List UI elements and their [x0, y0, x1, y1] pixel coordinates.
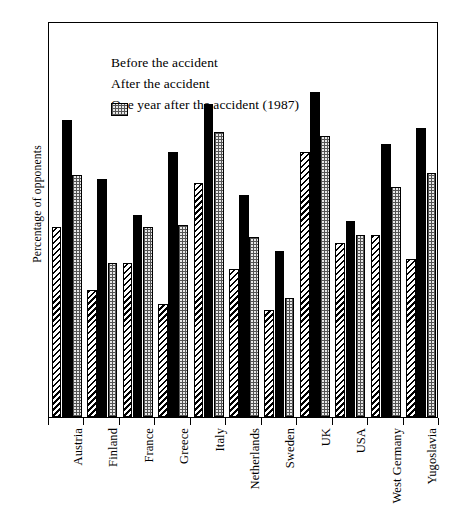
x-tick-mark-11 — [438, 418, 439, 425]
x-tick-mark-9 — [367, 418, 368, 425]
x-tick-mark-3 — [154, 418, 155, 425]
bar-west-germany-after — [381, 144, 391, 417]
plot-area: Before the accident After the accident O… — [48, 22, 438, 418]
bar-austria-oneyear — [72, 175, 82, 417]
bar-netherlands-oneyear — [249, 237, 259, 417]
bar-sweden-oneyear — [285, 298, 295, 417]
x-axis-label-uk: UK — [319, 428, 334, 446]
bar-greece-after — [168, 152, 178, 417]
legend-label-after: After the accident — [111, 76, 210, 92]
bar-italy-oneyear — [214, 132, 224, 417]
bar-austria-after — [62, 120, 72, 417]
x-tick-mark-10 — [403, 418, 404, 425]
bar-usa-after — [346, 221, 356, 417]
bar-sweden-before — [264, 310, 274, 417]
bar-netherlands-before — [229, 269, 239, 418]
bar-finland-before — [87, 290, 97, 417]
bar-finland-oneyear — [108, 263, 118, 417]
x-tick-mark-6 — [261, 418, 262, 425]
bar-uk-before — [300, 152, 310, 417]
bar-usa-before — [335, 243, 345, 417]
x-tick-mark-7 — [296, 418, 297, 425]
legend-item-before: Before the accident — [111, 53, 411, 73]
bar-yugoslavia-after — [416, 128, 426, 417]
x-tick-mark-0 — [48, 418, 49, 425]
bar-chart: Percentage of opponents 0102030405060708… — [0, 0, 451, 513]
x-axis-label-west-germany: West Germany — [390, 428, 405, 504]
legend-swatch-oneyear-icon — [111, 103, 128, 116]
bar-yugoslavia-oneyear — [427, 173, 437, 417]
x-tick-mark-1 — [83, 418, 84, 425]
bar-uk-oneyear — [320, 136, 330, 417]
x-tick-mark-2 — [119, 418, 120, 425]
x-axis-label-austria: Austria — [71, 428, 86, 466]
y-axis-title: Percentage of opponents — [31, 89, 43, 319]
bar-west-germany-before — [371, 235, 381, 417]
x-axis-label-italy: Italy — [213, 428, 228, 451]
x-axis-label-sweden: Sweden — [283, 428, 298, 468]
bar-france-after — [133, 215, 143, 417]
bar-netherlands-after — [239, 195, 249, 417]
legend-item-oneyear: One year after the accident (1987) — [111, 95, 411, 115]
x-tick-mark-8 — [332, 418, 333, 425]
x-axis-label-france: France — [142, 428, 157, 463]
bar-italy-before — [194, 183, 204, 417]
bar-france-oneyear — [143, 227, 153, 417]
bar-uk-after — [310, 92, 320, 417]
x-tick-mark-5 — [225, 418, 226, 425]
bar-france-before — [123, 263, 133, 417]
bar-west-germany-oneyear — [391, 187, 401, 417]
bar-finland-after — [97, 179, 107, 417]
x-axis-label-usa: USA — [354, 428, 369, 453]
bar-austria-before — [52, 227, 62, 417]
x-tick-mark-4 — [190, 418, 191, 425]
chart-legend: Before the accident After the accident O… — [111, 53, 411, 116]
legend-item-after: After the accident — [111, 74, 411, 94]
bar-sweden-after — [275, 251, 285, 417]
bar-greece-before — [158, 304, 168, 417]
bar-yugoslavia-before — [406, 259, 416, 417]
bar-italy-after — [204, 104, 214, 417]
x-axis-label-netherlands: Netherlands — [248, 428, 263, 490]
x-axis-label-finland: Finland — [106, 428, 121, 467]
legend-label-before: Before the accident — [111, 55, 218, 71]
x-axis-label-greece: Greece — [177, 428, 192, 464]
bar-usa-oneyear — [356, 235, 366, 417]
x-axis-label-yugoslavia: Yugoslavia — [425, 428, 440, 485]
bar-greece-oneyear — [178, 225, 188, 417]
